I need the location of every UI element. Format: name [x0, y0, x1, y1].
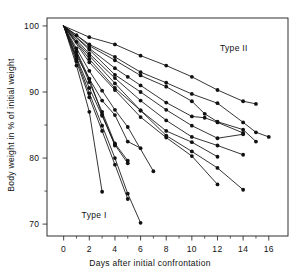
data-point-marker: [190, 135, 194, 139]
data-point-marker: [87, 35, 91, 39]
x-tick-label: 12: [212, 244, 222, 254]
body-weight-line-chart: 0246810121416 708090100 Type IIType I Da…: [0, 0, 303, 278]
x-tick-label: 14: [238, 244, 248, 254]
data-point-marker: [254, 102, 258, 106]
series-layer: [64, 26, 271, 225]
data-point-marker: [216, 183, 220, 187]
data-point-marker: [216, 166, 220, 170]
y-tick-label: 70: [29, 219, 39, 229]
data-point-marker: [190, 150, 194, 154]
data-point-marker: [164, 101, 168, 105]
data-point-marker: [216, 155, 220, 159]
x-tick-label: 4: [112, 244, 117, 254]
data-point-marker: [113, 82, 117, 86]
data-point-marker: [87, 60, 91, 64]
data-point-marker: [126, 161, 130, 165]
data-point-marker: [139, 70, 143, 74]
data-point-marker: [203, 112, 207, 116]
data-point-marker: [190, 140, 194, 144]
data-point-marker: [241, 153, 245, 157]
data-point-marker: [75, 64, 79, 68]
data-point-marker: [190, 99, 194, 103]
data-point-marker: [203, 116, 207, 120]
data-point-marker: [113, 73, 117, 77]
x-tick-label: 8: [164, 244, 169, 254]
data-point-marker: [87, 77, 91, 81]
series-type-ii-curve-4: [64, 26, 245, 135]
data-point-marker: [113, 144, 117, 148]
series-line: [64, 26, 128, 199]
data-point-marker: [267, 135, 271, 139]
data-point-marker: [254, 130, 258, 134]
data-point-marker: [254, 140, 258, 144]
data-point-marker: [164, 136, 168, 140]
data-point-marker: [139, 115, 143, 119]
data-point-marker: [100, 113, 104, 117]
data-point-marker: [113, 113, 117, 117]
data-point-marker: [126, 197, 130, 201]
data-point-marker: [113, 76, 117, 80]
data-point-marker: [139, 74, 143, 78]
data-point-marker: [100, 129, 104, 133]
data-point-marker: [164, 81, 168, 85]
data-point-marker: [216, 101, 220, 105]
data-point-marker: [139, 83, 143, 87]
data-point-marker: [164, 118, 168, 122]
data-point-marker: [113, 88, 117, 92]
x-axis-title: Days after initial confrontation: [89, 258, 211, 268]
data-point-marker: [241, 120, 245, 124]
data-point-marker: [139, 90, 143, 94]
data-point-marker: [139, 221, 143, 225]
data-point-marker: [241, 99, 245, 103]
y-tick-label: 90: [29, 87, 39, 97]
data-point-marker: [216, 144, 220, 148]
data-point-marker: [87, 69, 91, 73]
data-point-marker: [241, 128, 245, 132]
y-axis-title: Body weight in % of initial weight: [6, 58, 16, 192]
data-point-marker: [216, 120, 220, 124]
x-tick-label: 10: [187, 244, 197, 254]
data-point-marker: [190, 124, 194, 128]
data-point-marker: [216, 136, 220, 140]
data-point-marker: [113, 163, 117, 167]
data-point-marker: [100, 89, 104, 93]
data-point-marker: [87, 95, 91, 99]
data-point-marker: [139, 54, 143, 58]
series-line: [64, 26, 256, 104]
data-point-marker: [75, 49, 79, 53]
data-point-marker: [190, 75, 194, 79]
data-point-marker: [100, 99, 104, 103]
data-point-marker: [139, 109, 143, 113]
data-point-marker: [164, 85, 168, 89]
data-point-marker: [87, 110, 91, 114]
data-point-marker: [190, 154, 194, 158]
annotation-label: Type I: [82, 210, 107, 220]
x-tick-label: 0: [61, 244, 66, 254]
data-point-marker: [139, 99, 143, 103]
y-tick-label: 80: [29, 153, 39, 163]
chart-figure: 0246810121416 708090100 Type IIType I Da…: [0, 0, 303, 278]
data-point-marker: [113, 108, 117, 112]
data-point-marker: [241, 188, 245, 192]
x-tick-label: 6: [138, 244, 143, 254]
x-axis-ticks: 0246810121416: [61, 236, 274, 254]
data-point-marker: [190, 115, 194, 119]
annotation-label: Type II: [220, 43, 248, 53]
y-tick-label: 100: [24, 21, 39, 31]
data-point-marker: [100, 190, 104, 194]
data-point-marker: [164, 64, 168, 68]
data-point-marker: [139, 146, 143, 150]
x-tick-label: 2: [87, 244, 92, 254]
x-tick-label: 16: [264, 244, 274, 254]
data-point-marker: [164, 108, 168, 112]
data-point-marker: [126, 125, 130, 129]
data-point-marker: [164, 129, 168, 133]
y-axis-ticks: 708090100: [24, 21, 47, 229]
series-type-ii-curve-9: [64, 26, 220, 186]
data-point-marker: [216, 88, 220, 92]
series-type-i-curve-5: [64, 26, 143, 225]
data-point-marker: [87, 48, 91, 52]
data-point-marker: [113, 55, 117, 59]
data-point-marker: [113, 66, 117, 70]
data-point-marker: [190, 92, 194, 96]
